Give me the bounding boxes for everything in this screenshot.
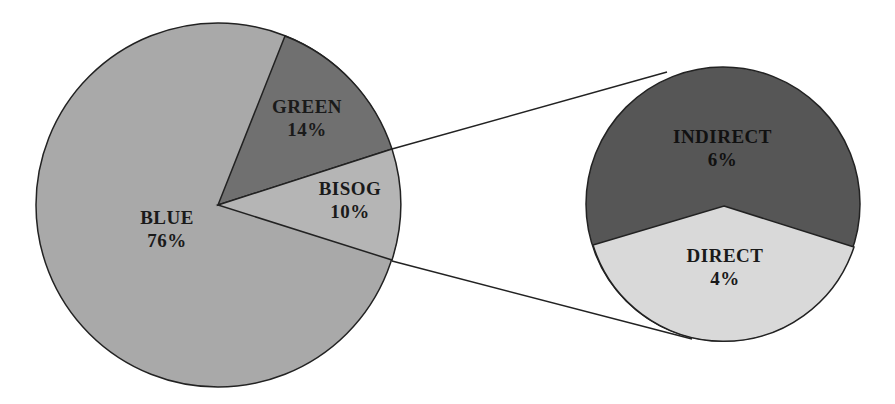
pie-of-pie-chart [0,0,895,404]
label-blue-value: 76% [122,229,212,252]
label-direct: DIRECT 4% [670,244,780,290]
label-indirect-value: 6% [660,148,785,171]
label-direct-value: 4% [670,267,780,290]
breakout-pie [586,67,860,341]
label-indirect-name: INDIRECT [660,125,785,148]
label-green: GREEN 14% [262,95,352,141]
label-bisog-value: 10% [305,200,395,223]
label-blue-name: BLUE [122,206,212,229]
label-bisog-name: BISOG [305,177,395,200]
label-green-value: 14% [262,118,352,141]
label-direct-name: DIRECT [670,244,780,267]
label-indirect: INDIRECT 6% [660,125,785,171]
label-green-name: GREEN [262,95,352,118]
label-bisog: BISOG 10% [305,177,395,223]
label-blue: BLUE 76% [122,206,212,252]
